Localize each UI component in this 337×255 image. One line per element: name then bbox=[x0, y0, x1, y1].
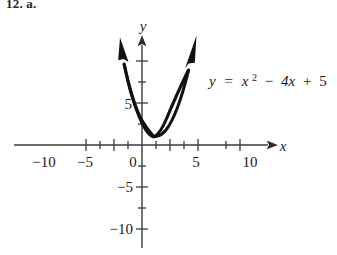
eq-constant: 5 bbox=[319, 73, 327, 89]
eq-term-linear: 4x bbox=[281, 73, 296, 89]
eq-lhs: y bbox=[207, 73, 216, 89]
parabola-right-arrowhead bbox=[185, 36, 197, 69]
x-tick-label-zero: 0 bbox=[129, 154, 137, 170]
y-axis bbox=[136, 45, 148, 248]
eq-plus: + bbox=[303, 73, 311, 89]
x-tick-label-10: 10 bbox=[243, 154, 258, 170]
svg-text:y = x: y = x 2 − 4x + 5 bbox=[207, 68, 327, 89]
parabola-left-arrowhead bbox=[118, 38, 128, 63]
x-axis-name-label: x bbox=[279, 138, 287, 154]
coordinate-plane-svg: −10 −5 0 5 10 5 −5 −10 x y y = x bbox=[0, 0, 337, 255]
y-tick-label-neg10: −10 bbox=[110, 221, 133, 237]
parabola-curve bbox=[118, 36, 196, 137]
eq-exponent: 2 bbox=[252, 72, 257, 83]
x-axis bbox=[14, 139, 268, 151]
eq-term-x: x bbox=[241, 73, 249, 89]
eq-equals: = bbox=[224, 73, 232, 89]
parabola-figure: 12. a. bbox=[0, 0, 337, 255]
equation-annotation: y = x 2 − 4x + 5 bbox=[207, 68, 327, 89]
y-tick-label-5: 5 bbox=[125, 96, 133, 112]
x-tick-label-neg10: −10 bbox=[32, 154, 55, 170]
y-tick-label-neg5: −5 bbox=[117, 179, 133, 195]
x-tick-label-neg5: −5 bbox=[77, 154, 93, 170]
x-tick-label-5: 5 bbox=[192, 154, 200, 170]
problem-number-label: 12. a. bbox=[6, 0, 36, 12]
eq-minus: − bbox=[265, 73, 273, 89]
y-axis-name-label: y bbox=[138, 18, 147, 34]
